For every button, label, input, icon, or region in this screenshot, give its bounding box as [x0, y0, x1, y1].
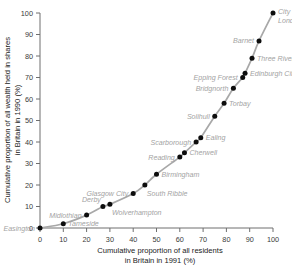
data-point	[182, 150, 187, 155]
data-point	[84, 213, 89, 218]
point-label: Three Rivers	[257, 55, 292, 63]
data-point	[243, 71, 248, 76]
point-label: Reading	[148, 154, 174, 162]
x-tick-label: 40	[129, 235, 137, 244]
x-tick-label: 100	[267, 235, 279, 244]
data-point	[194, 140, 199, 145]
x-tick-label: 30	[106, 235, 114, 244]
point-label: London	[278, 17, 292, 25]
y-tick-label: 100	[21, 9, 33, 18]
data-point	[240, 75, 245, 80]
x-tick-label: 60	[176, 235, 184, 244]
point-label: Bridgnorth	[196, 85, 229, 93]
point-label: Glasgow City	[86, 190, 128, 198]
y-axis-ticks: 0102030405060708090100	[21, 9, 40, 233]
point-label: Easington	[3, 225, 35, 233]
x-tick-label: 20	[83, 235, 91, 244]
x-tick-label: 70	[199, 235, 207, 244]
y-tick-label: 60	[25, 95, 33, 104]
point-label: Barnet	[233, 37, 255, 45]
data-point	[212, 114, 217, 119]
point-label: Scarborough	[150, 139, 191, 147]
point-label: Epping Forest	[194, 74, 239, 82]
data-point	[38, 226, 43, 231]
point-label: Midlothian	[49, 212, 81, 220]
data-point	[257, 38, 262, 43]
x-tick-label: 50	[152, 235, 160, 244]
data-point	[61, 221, 66, 226]
y-tick-label: 30	[25, 159, 33, 168]
x-axis-ticks: 0102030405060708090100	[38, 228, 279, 244]
data-point	[250, 56, 255, 61]
point-label: Cherwell	[189, 149, 217, 157]
data-point	[131, 191, 136, 196]
data-point	[231, 86, 236, 91]
data-point	[271, 11, 276, 16]
y-tick-label: 20	[25, 181, 33, 190]
data-point	[222, 101, 227, 106]
x-tick-label: 0	[38, 235, 42, 244]
x-axis-title-line2: in Britain in 1991 (%)	[125, 256, 196, 265]
y-tick-label: 80	[25, 52, 33, 61]
point-label: South Ribble	[147, 190, 188, 198]
x-axis-title-line1: Cumulative proportion of all residents	[97, 246, 223, 255]
y-axis-title-line2: in Britain in 1990 (%)	[13, 84, 22, 155]
y-tick-label: 90	[25, 30, 33, 39]
data-point	[198, 135, 203, 140]
data-point	[177, 155, 182, 160]
y-tick-label: 70	[25, 73, 33, 82]
data-point	[154, 172, 159, 177]
point-label: Ealing	[206, 134, 226, 142]
data-point	[100, 204, 105, 209]
data-point	[107, 202, 112, 207]
x-tick-label: 90	[246, 235, 254, 244]
lorenz-chart: 0102030405060708090100 01020304050607080…	[0, 0, 292, 268]
point-label: Solihull	[187, 113, 210, 121]
point-label: Tameside	[68, 220, 99, 228]
data-point	[142, 183, 147, 188]
point-labels: EasingtonTamesideMidlothianDerbyWolverha…	[3, 8, 292, 233]
point-label: Torbay	[229, 100, 251, 108]
x-tick-label: 80	[222, 235, 230, 244]
y-tick-label: 10	[25, 202, 33, 211]
point-label: Birmingham	[162, 171, 200, 179]
point-label: Edinburgh City	[250, 70, 292, 78]
point-label: Wolverhampton	[112, 209, 162, 217]
y-tick-label: 50	[25, 116, 33, 125]
y-axis-title-line1: Cumulative proportion of all wealth held…	[3, 37, 12, 203]
x-tick-label: 10	[59, 235, 67, 244]
y-tick-label: 40	[25, 138, 33, 147]
point-label: City of	[278, 8, 292, 16]
chart-canvas: 0102030405060708090100 01020304050607080…	[0, 0, 292, 268]
